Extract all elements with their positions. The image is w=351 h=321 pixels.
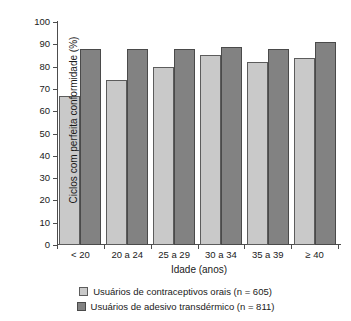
bar-group (153, 49, 195, 245)
bar (174, 49, 195, 245)
bar-group (247, 49, 289, 245)
y-tick-label: 90 (39, 37, 50, 50)
bar (268, 49, 289, 245)
bar-chart-figure: 0102030405060708090100 Ciclos com perfei… (0, 0, 351, 321)
y-tick-label: 50 (39, 127, 50, 140)
legend-item: Usuários de contraceptivos orais (n = 60… (0, 284, 351, 299)
y-tick-mark (53, 89, 57, 90)
y-tick-mark (53, 223, 57, 224)
legend-swatch-icon (77, 302, 86, 311)
y-tick-mark (53, 156, 57, 157)
y-tick-mark (53, 200, 57, 201)
bar (294, 58, 315, 245)
y-tick-label: 20 (39, 193, 50, 206)
y-axis-title: Ciclos com perfeita conformidade (%) (68, 15, 80, 225)
x-category-label: 30 a 34 (198, 249, 245, 261)
y-tick-mark (53, 134, 57, 135)
y-tick-label: 10 (39, 216, 50, 229)
bar (80, 49, 101, 245)
x-tick-mark (338, 245, 339, 249)
y-tick-label: 0 (45, 238, 50, 251)
y-tick-label: 30 (39, 171, 50, 184)
legend-label: Usuários de adesivo transdérmico (n = 81… (91, 300, 275, 313)
bar (315, 42, 336, 245)
y-tick-label: 40 (39, 149, 50, 162)
y-tick-mark (53, 178, 57, 179)
bar-group (106, 49, 148, 245)
x-category-label: < 20 (57, 249, 104, 261)
legend-swatch-icon (79, 287, 88, 296)
bar-group (200, 47, 242, 245)
x-axis-title: Idade (anos) (57, 264, 341, 276)
bar (221, 47, 242, 245)
x-category-label: 25 a 29 (151, 249, 198, 261)
x-category-label: ≥ 40 (291, 249, 338, 261)
y-tick-mark (53, 111, 57, 112)
y-tick-label: 70 (39, 82, 50, 95)
bar (247, 62, 268, 245)
bar (127, 49, 148, 245)
bar-group (294, 42, 336, 245)
y-tick-label: 60 (39, 104, 50, 117)
bar (200, 55, 221, 245)
bar (106, 80, 127, 245)
y-tick-mark (53, 67, 57, 68)
y-tick-mark (53, 44, 57, 45)
legend: Usuários de contraceptivos orais (n = 60… (0, 284, 351, 314)
x-category-label: 20 a 24 (104, 249, 151, 261)
y-tick-label: 100 (34, 15, 50, 28)
bar (153, 67, 174, 245)
legend-label: Usuários de contraceptivos orais (n = 60… (93, 285, 272, 298)
y-tick-label: 80 (39, 60, 50, 73)
y-tick-mark (53, 22, 57, 23)
legend-item: Usuários de adesivo transdérmico (n = 81… (0, 299, 351, 314)
plot-area: 0102030405060708090100 Ciclos com perfei… (57, 22, 338, 245)
x-category-label: 35 a 39 (244, 249, 291, 261)
bar-group (59, 49, 101, 245)
